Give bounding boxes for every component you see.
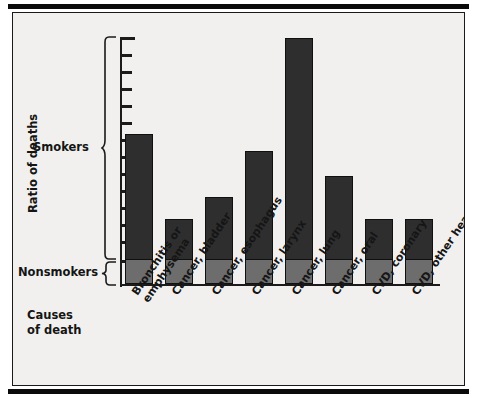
y-axis-tick — [122, 105, 132, 108]
x-axis-line — [120, 284, 440, 286]
nonsmokers-label: Nonsmokers — [18, 266, 98, 280]
chart-panel: Smokers Nonsmokers Ratio of deaths Cause… — [12, 12, 465, 386]
y-axis-tick — [122, 54, 132, 57]
x-axis-title-line1: Causes — [27, 309, 73, 323]
top-rule — [8, 4, 469, 9]
bottom-rule — [8, 389, 469, 394]
figure-root: Smokers Nonsmokers Ratio of deaths Cause… — [0, 0, 477, 398]
y-axis-tick — [122, 37, 135, 40]
y-axis-tick — [122, 88, 132, 91]
nonsmokers-brace — [101, 261, 117, 286]
y-axis-tick — [122, 122, 132, 125]
bar-segment-smokers — [126, 135, 152, 259]
y-axis-tick — [122, 71, 132, 74]
y-axis-title: Ratio of deaths — [27, 114, 41, 213]
plot-area: Smokers Nonsmokers Ratio of deaths Cause… — [13, 13, 464, 385]
x-axis-title-line2: of death — [27, 324, 81, 338]
smokers-brace — [101, 36, 117, 260]
smokers-label: Smokers — [33, 141, 89, 155]
y-axis-line — [120, 37, 122, 287]
